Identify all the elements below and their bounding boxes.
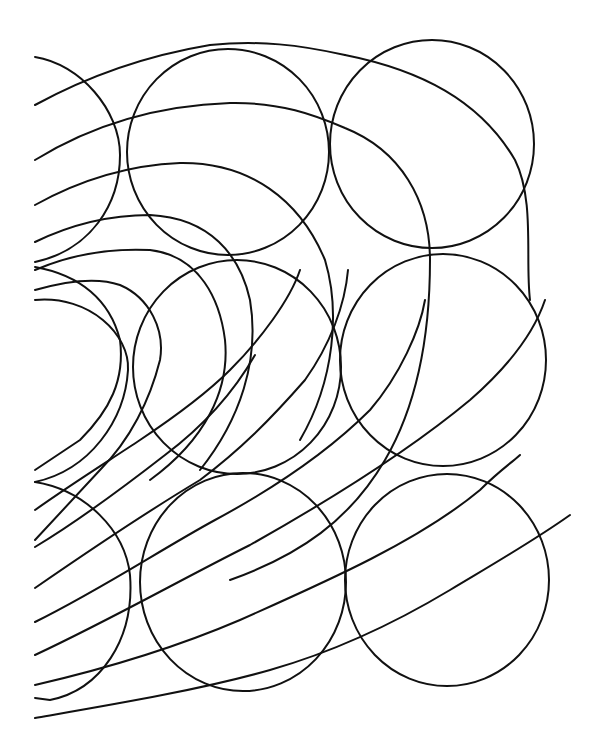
circle-middle-center xyxy=(133,260,341,474)
circle-bottom-center xyxy=(140,473,346,691)
circle-bottom-right xyxy=(345,474,549,686)
arc-14 xyxy=(35,455,520,685)
arc-8 xyxy=(35,267,121,470)
circles xyxy=(35,40,549,700)
arc-2 xyxy=(345,55,530,300)
circle-top-middle xyxy=(127,49,329,255)
arc-11 xyxy=(35,270,348,588)
line-drawing-canvas xyxy=(0,0,601,754)
arc-13 xyxy=(35,300,545,655)
arcs xyxy=(35,43,570,718)
arc-5 xyxy=(35,215,253,470)
circle-middle-right xyxy=(340,254,546,466)
line-art xyxy=(0,0,601,754)
arc-1 xyxy=(35,43,345,105)
arc-12 xyxy=(35,300,425,622)
arc-7 xyxy=(35,281,161,540)
circle-top-left-partial xyxy=(35,57,120,262)
